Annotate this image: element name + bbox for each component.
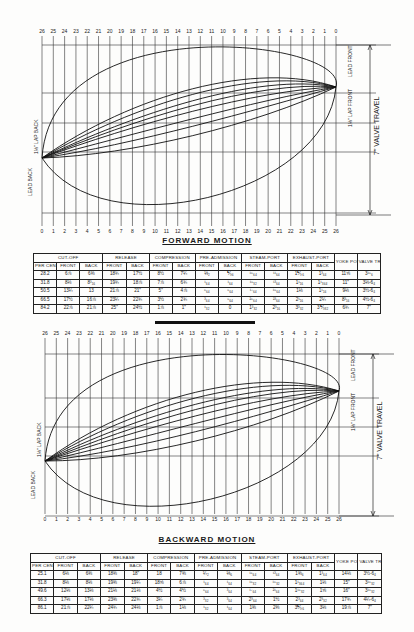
table-cell: 15": [335, 579, 358, 588]
top-tick-label: 18: [130, 28, 136, 34]
bottom-tick-label: 23: [299, 228, 305, 234]
bottom-tick-label: 19: [257, 516, 263, 522]
table-cell: 1³₆₄: [311, 571, 334, 580]
column-sub-header: FRONT: [149, 262, 172, 271]
table-cell: 12⅛: [54, 588, 77, 597]
bottom-tick-label: 5: [100, 516, 103, 522]
bottom-tick-label: 8: [134, 516, 137, 522]
table-row: 66.517½16⅞23¼22¾3½2¾³₆₄⁵₆₄²⁵₆₄²³₆₄2¹₁₆2¼…: [34, 296, 381, 305]
table-cell: 13¼: [57, 288, 80, 297]
backward-motion-table: CUT-OFFRELEASECOMPRESSIONPRE-ADMISSIONST…: [30, 553, 382, 614]
table-cell: ¹⁵₃₂: [242, 279, 265, 288]
table-cell: 22¾: [126, 296, 149, 305]
forward-motion-caption: FORWARD MOTION: [0, 236, 414, 245]
top-tick-label: 16: [152, 28, 158, 34]
table-cell: 14⅛: [335, 571, 358, 580]
table-row: 50.513¼1321⅞21"5"4⅞⁵₆₄⁵₆₄¹⁷₆₄¹⁵₆₄1⅛1¹₁₆9…: [34, 288, 381, 297]
table-cell: 3⅛-6₄: [357, 279, 380, 288]
column-group-header: VALVE TRAVEL: [358, 554, 382, 571]
table-cell: 24¾: [101, 605, 124, 614]
bottom-tick-label: 19: [254, 228, 260, 234]
column-sub-header: FRONT: [103, 262, 126, 271]
column-sub-header: FRONT: [101, 562, 124, 571]
top-tick-label: 15: [167, 330, 173, 336]
table-cell: 28.2: [34, 271, 57, 280]
grid: 2602512422332242152061971881791610151114…: [42, 330, 379, 522]
top-tick-label: 3: [301, 28, 304, 34]
top-tick-label: 16: [155, 330, 161, 336]
table-cell: 18⅜: [101, 571, 124, 580]
column-sub-header: BACK: [265, 262, 288, 271]
bottom-tick-label: 18: [246, 516, 252, 522]
lead-front-label: LEAD FRONT: [350, 349, 356, 381]
table-cell: 1⅜: [241, 605, 264, 614]
table-cell: 1⅛: [288, 288, 311, 297]
column-sub-header: BACK: [311, 262, 334, 271]
top-tick-label: 1: [323, 28, 326, 34]
table-cell: ⁵₆₄: [194, 588, 217, 597]
table-cell: 31.8: [34, 279, 57, 288]
table-cell: 7": [357, 305, 380, 314]
top-tick-label: 20: [107, 28, 113, 34]
column-group-header: RELEASE: [101, 554, 148, 563]
lead-back-label: LEAD BACK: [30, 470, 36, 499]
table-cell: ¹⁷₆₄: [242, 288, 265, 297]
bottom-tick-label: 21: [280, 516, 286, 522]
lap-back-label: 1⅓" LAP BACK: [33, 119, 39, 154]
table-cell: 22¾: [124, 596, 147, 605]
top-tick-label: 26: [42, 330, 48, 336]
table-cell: ⁵₆₄: [219, 288, 242, 297]
table-cell: ¹₆₄: [218, 605, 241, 614]
table-cell: ²³₆₄: [265, 296, 288, 305]
column-sub-header: FRONT: [195, 262, 218, 271]
table-cell: 1⅞: [147, 605, 170, 614]
bottom-tick-label: 17: [234, 516, 240, 522]
table-cell: 2³₁₆: [265, 305, 288, 314]
table-cell: 1¹₁₆: [288, 279, 311, 288]
top-tick-label: 15: [164, 28, 170, 34]
table-cell: 17⅛: [77, 596, 100, 605]
top-tick-label: 26: [39, 28, 45, 34]
valve-travel-label: 7" VALVE TRAVEL: [373, 97, 380, 155]
table-cell: 21⅛: [101, 588, 124, 597]
table-cell: 2¹₁₆: [288, 296, 311, 305]
table-row: 66.317⅛17⅛23⅜22¾3¼2¾³₃₂³₆₄2³₆₄1½2³₆₄2³₃₂…: [31, 596, 382, 605]
column-group-header: PRE-ADMISSION: [195, 254, 241, 263]
top-tick-label: 23: [76, 330, 82, 336]
table-cell: ¹⁵₆₄: [265, 288, 288, 297]
table-cell: 17¾: [335, 596, 358, 605]
column-sub-header: BACK: [172, 262, 195, 271]
table-cell: 1⅛: [171, 605, 194, 614]
table-cell: ¹³₆₄: [264, 571, 287, 580]
top-tick-label: 4: [292, 330, 295, 336]
column-sub-header: BACK: [77, 562, 100, 571]
table-cell: ⁵₆₄: [219, 296, 242, 305]
top-tick-label: 5: [281, 330, 284, 336]
table-cell: 7¼: [172, 271, 195, 280]
column-sub-header: FRONT: [194, 562, 217, 571]
bottom-tick-label: 16: [220, 228, 226, 234]
bottom-tick-label: 12: [178, 516, 184, 522]
bottom-tick-label: 11: [167, 516, 172, 522]
bottom-tick-label: 8: [131, 228, 134, 234]
top-tick-label: 13: [186, 28, 192, 34]
bottom-tick-label: 10: [155, 516, 161, 522]
bottom-tick-label: 24: [314, 516, 320, 522]
grid: 2602512422332242152061971881791610151114…: [39, 28, 376, 234]
table-cell: 4½: [171, 588, 194, 597]
table-cell: 2¼: [311, 296, 334, 305]
table-cell: ¹₆₄: [218, 579, 241, 588]
table-cell: 24⅛: [124, 605, 147, 614]
bottom-tick-label: 20: [268, 516, 274, 522]
top-tick-label: 11: [212, 330, 217, 336]
top-tick-label: 17: [144, 330, 150, 336]
column-group-header: EXHAUST-PORT: [288, 254, 334, 263]
table-cell: 0: [219, 305, 242, 314]
column-group-header: STEAM-PORT: [242, 254, 288, 263]
table-cell: 25": [103, 305, 126, 314]
table-cell: ²¹₆₄: [264, 588, 287, 597]
bottom-tick-label: 11: [164, 228, 169, 234]
table-cell: 24½: [126, 305, 149, 314]
table-cell: ¹₆₄: [194, 579, 217, 588]
table-cell: 3⅕₆: [288, 605, 311, 614]
